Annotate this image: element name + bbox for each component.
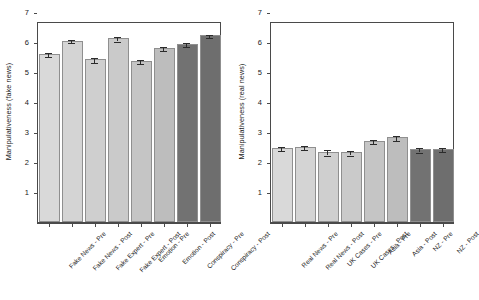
error-bar-cap [439,152,446,153]
error-bar-cap [393,136,400,137]
error-bar-cap [278,147,285,148]
error-bar-cap [370,144,377,145]
x-axis-tick-mark [187,223,188,227]
x-axis-tick-mark [282,223,283,227]
x-axis-tick-label: NZ - Post [455,230,479,255]
error-bar-cap [439,148,446,149]
bar [410,149,430,222]
x-axis-line [37,223,221,224]
x-axis-tick-mark [164,223,165,227]
y-axis-tick-label: 7 [242,8,262,18]
bar [364,141,384,222]
y-axis-tick-label: 2 [9,158,29,168]
x-axis-tick-mark [351,223,352,227]
y-axis-tick-mark [34,13,38,14]
error-bar-cap [68,43,75,44]
bar [108,38,128,222]
x-axis-tick-mark [49,223,50,227]
error-bar-cap [160,47,167,48]
bar [272,148,292,222]
y-axis-tick-mark [267,73,271,74]
error-bar-cap [114,42,121,43]
y-axis-tick-mark [34,73,38,74]
error-bar-cap [91,58,98,59]
y-axis-tick-label: 6 [242,38,262,48]
y-axis-tick-label: 5 [242,68,262,78]
x-axis-tick-mark [305,223,306,227]
x-axis-tick-mark [443,223,444,227]
bar [341,152,361,222]
x-axis-tick-mark [141,223,142,227]
y-axis-tick-label: 1 [242,188,262,198]
error-bar-cap [45,53,52,54]
x-axis-tick-mark [420,223,421,227]
bar [131,61,151,222]
y-axis-tick-mark [267,193,271,194]
y-axis-tick-mark [34,163,38,164]
error-bar-cap [114,37,121,38]
error-bar-cap [183,47,190,48]
error-bar-cap [68,40,75,41]
error-bar-cap [301,146,308,147]
y-axis-tick-mark [267,103,271,104]
bar [39,54,59,222]
x-axis-tick-mark [374,223,375,227]
y-axis-tick-label: 7 [9,8,29,18]
y-axis-tick-mark [34,193,38,194]
x-axis-line [270,223,454,224]
y-axis-tick-label: 3 [9,128,29,138]
error-bar-cap [416,153,423,154]
y-axis-tick-mark [34,133,38,134]
bar [177,44,197,222]
y-axis-tick-mark [34,43,38,44]
error-bar-cap [301,150,308,151]
y-axis-label-text: Manipulativeness (real news) [238,64,247,160]
x-axis-tick-mark [72,223,73,227]
error-bar-cap [347,156,354,157]
bar [318,152,338,222]
y-axis-tick-label: 2 [242,158,262,168]
error-bar-cap [206,38,213,39]
error-bar-cap [160,51,167,52]
x-axis-tick-mark [397,223,398,227]
y-axis-tick-mark [34,103,38,104]
bars-group [271,23,453,222]
panel-fake-news: Manipulativeness (fake news)1234567Fake … [0,0,233,300]
y-axis-tick-mark [267,13,271,14]
bars-group [38,23,220,222]
y-axis-tick-label: 6 [9,38,29,48]
y-axis-tick-label: 4 [242,98,262,108]
panel-real-news: Manipulativeness (real news)1234567Real … [233,0,466,300]
y-axis-tick-label: 4 [9,98,29,108]
plot-area [37,22,221,223]
error-bar-cap [393,141,400,142]
x-axis-tick-mark [328,223,329,227]
y-axis-tick-mark [267,163,271,164]
error-bar-cap [45,57,52,58]
bar [295,147,315,222]
bar [433,149,453,222]
y-axis-tick-mark [267,133,271,134]
bar [200,35,220,222]
y-axis-tick-label: 1 [9,188,29,198]
error-bar-cap [183,43,190,44]
error-bar-cap [137,60,144,61]
bar [62,41,82,223]
y-axis-tick-label: 3 [242,128,262,138]
y-axis-tick-mark [267,43,271,44]
error-bar-cap [206,35,213,36]
bar [154,48,174,222]
error-bar-cap [278,151,285,152]
bar [387,137,407,222]
x-axis-tick-mark [210,223,211,227]
x-axis-tick-mark [118,223,119,227]
y-axis-tick-label: 5 [9,68,29,78]
plot-area [270,22,454,223]
bar [85,59,105,222]
error-bar-cap [416,148,423,149]
error-bar-cap [137,64,144,65]
error-bar-cap [324,150,331,151]
x-axis-tick-mark [95,223,96,227]
error-bar-cap [324,156,331,157]
